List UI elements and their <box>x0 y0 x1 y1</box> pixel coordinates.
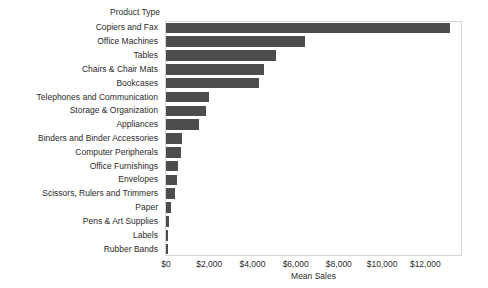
bar[interactable] <box>166 133 182 144</box>
bar[interactable] <box>166 23 450 34</box>
x-tick-label: $6,000 <box>283 258 309 270</box>
x-axis-title: Mean Sales <box>165 271 462 282</box>
bar[interactable] <box>166 92 209 103</box>
category-label-column: Copiers and FaxOffice MachinesTablesChai… <box>0 21 162 256</box>
bar-row <box>166 201 462 215</box>
bar[interactable] <box>166 175 177 186</box>
category-label: Copiers and Fax <box>96 21 158 34</box>
bar-row <box>166 118 462 132</box>
bar[interactable] <box>166 216 169 227</box>
bar-row <box>166 173 462 187</box>
bar-row <box>166 35 462 49</box>
category-label: Bookcases <box>116 77 158 90</box>
x-tick-label: $8,000 <box>326 258 352 270</box>
bar[interactable] <box>166 36 305 47</box>
bar-row <box>166 187 462 201</box>
category-label: Telephones and Communication <box>37 91 158 104</box>
category-label: Storage & Organization <box>70 104 158 117</box>
bar-row <box>166 90 462 104</box>
category-label: Tables <box>133 49 158 62</box>
bar-row <box>166 159 462 173</box>
bar[interactable] <box>166 106 206 117</box>
bar[interactable] <box>166 119 199 130</box>
category-label: Chairs & Chair Mats <box>82 63 158 76</box>
bar[interactable] <box>166 161 178 172</box>
x-tick-label: $0 <box>161 258 170 270</box>
category-label: Rubber Bands <box>104 243 158 256</box>
bar-row <box>166 62 462 76</box>
category-label: Appliances <box>116 118 158 131</box>
bar-chart: Product Type Copiers and FaxOffice Machi… <box>0 0 488 288</box>
bar-row <box>166 145 462 159</box>
category-label: Binders and Binder Accessories <box>38 132 158 145</box>
category-label: Office Machines <box>97 35 158 48</box>
bar[interactable] <box>166 64 264 75</box>
x-tick-label: $2,000 <box>196 258 222 270</box>
bar-row <box>166 76 462 90</box>
category-label: Envelopes <box>118 173 158 186</box>
bar[interactable] <box>166 188 175 199</box>
bar-row <box>166 132 462 146</box>
bar[interactable] <box>166 50 276 61</box>
bar-row <box>166 215 462 229</box>
bar-row <box>166 49 462 63</box>
bar[interactable] <box>166 202 171 213</box>
bar[interactable] <box>166 147 181 158</box>
bars-layer <box>166 21 462 256</box>
x-tick-label: $4,000 <box>239 258 265 270</box>
bar-row <box>166 104 462 118</box>
bar[interactable] <box>166 78 259 89</box>
category-label: Office Furnishings <box>90 160 158 173</box>
y-axis-field-caption: Product Type <box>0 7 160 18</box>
category-label: Labels <box>133 229 158 242</box>
x-tick-label: $10,000 <box>367 258 398 270</box>
category-label: Paper <box>135 201 158 214</box>
bar-row <box>166 21 462 35</box>
category-label: Pens & Art Supplies <box>83 215 158 228</box>
bar-row <box>166 228 462 242</box>
bar-row <box>166 242 462 256</box>
x-tick-label: $12,000 <box>410 258 441 270</box>
bar[interactable] <box>166 244 168 255</box>
bar[interactable] <box>166 230 168 241</box>
x-axis-tick-labels: $0$2,000$4,000$6,000$8,000$10,000$12,000 <box>0 258 488 270</box>
category-label: Computer Peripherals <box>75 146 158 159</box>
category-label: Scissors, Rulers and Trimmers <box>42 187 158 200</box>
